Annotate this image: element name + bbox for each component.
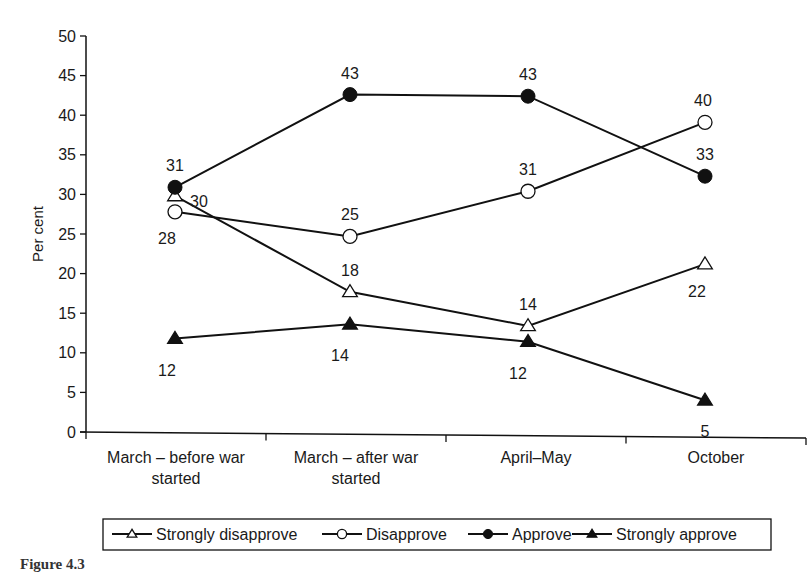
y-tick-label: 45	[58, 67, 76, 84]
y-tick-label: 5	[67, 384, 76, 401]
legend-entry-disapprove: Disapprove	[366, 526, 447, 543]
y-tick-label: 10	[58, 344, 76, 361]
series-markers	[168, 88, 713, 405]
y-axis: 05101520253035404550	[58, 28, 86, 441]
data-label: 12	[509, 365, 527, 382]
y-tick-label: 30	[58, 186, 76, 203]
y-tick-label: 20	[58, 265, 76, 282]
x-category-label: October	[688, 449, 746, 466]
legend-entry-strongly-approve: Strongly approve	[616, 526, 737, 543]
legend-entry-strongly-disapprove: Strongly disapprove	[156, 526, 298, 543]
series-line-strongly-approve	[175, 324, 705, 400]
data-label: 31	[166, 157, 184, 174]
y-tick-label: 0	[67, 424, 76, 441]
legend: Strongly disapproveDisapproveApproveStro…	[103, 519, 771, 550]
data-label: 30	[190, 193, 208, 210]
data-label: 14	[331, 347, 349, 364]
data-label: 40	[694, 92, 712, 109]
x-category-label: March – after warstarted	[294, 449, 419, 487]
data-label: 25	[341, 206, 359, 223]
data-label: 22	[688, 283, 706, 300]
x-category-label: March – before warstarted	[107, 449, 246, 487]
series-line-approve	[175, 95, 705, 188]
legend-entry-approve: Approve	[512, 526, 572, 543]
data-label: 18	[341, 262, 359, 279]
x-axis: March – before warstartedMarch – after w…	[80, 432, 806, 487]
figure-caption-prefix: Figure 4.3	[20, 556, 85, 572]
data-label: 43	[341, 65, 359, 82]
y-axis-title: Per cent	[29, 205, 46, 262]
data-label: 43	[519, 66, 537, 83]
y-tick-label: 50	[58, 28, 76, 45]
data-label: 33	[696, 146, 714, 163]
data-label: 31	[519, 161, 537, 178]
data-label: 12	[158, 362, 176, 379]
data-label: 14	[519, 296, 537, 313]
x-category-label: April–May	[500, 449, 571, 466]
line-chart: 05101520253035404550 March – before wars…	[0, 0, 810, 552]
y-tick-label: 25	[58, 226, 76, 243]
series-line-strongly-disapprove	[175, 196, 705, 326]
figure-caption: Figure 4.3	[20, 556, 85, 572]
data-label: 28	[158, 230, 176, 247]
series-lines	[175, 95, 705, 401]
data-label: 5	[701, 423, 710, 440]
y-tick-label: 15	[58, 305, 76, 322]
y-tick-label: 35	[58, 146, 76, 163]
data-labels: 3018142228253140314343331214125	[158, 65, 714, 441]
y-tick-label: 40	[58, 107, 76, 124]
